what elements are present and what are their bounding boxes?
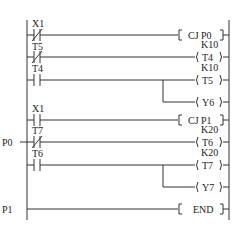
rung-2 (27, 51, 229, 63)
coil-label: Y6 (202, 97, 214, 108)
preset-label: K10 (201, 39, 218, 50)
rung-7 (27, 159, 229, 192)
preset-label: K10 (201, 62, 218, 73)
contact-label: T4 (32, 63, 43, 74)
preset-label: K20 (201, 147, 218, 158)
pointer-label: P1 (2, 204, 13, 215)
contact-label: X1 (32, 103, 44, 114)
rung-3 (27, 74, 229, 107)
coil-label: Y7 (202, 182, 214, 193)
pointer-label: P0 (2, 137, 13, 148)
ladder-diagram: X1 CJ P0 T5 K10 T4 T4 K10 T5 Y6 X1 CJ P1… (0, 0, 245, 234)
contact-label: T7 (32, 125, 43, 136)
coil-label: T7 (202, 160, 213, 171)
contact-label: T5 (32, 41, 43, 52)
coil-label: T5 (202, 75, 213, 86)
contact-label: X1 (32, 18, 44, 29)
instruction-label: END (193, 204, 214, 215)
contact-label: T6 (32, 148, 43, 159)
preset-label: K20 (201, 124, 218, 135)
rung-6 (20, 136, 229, 148)
